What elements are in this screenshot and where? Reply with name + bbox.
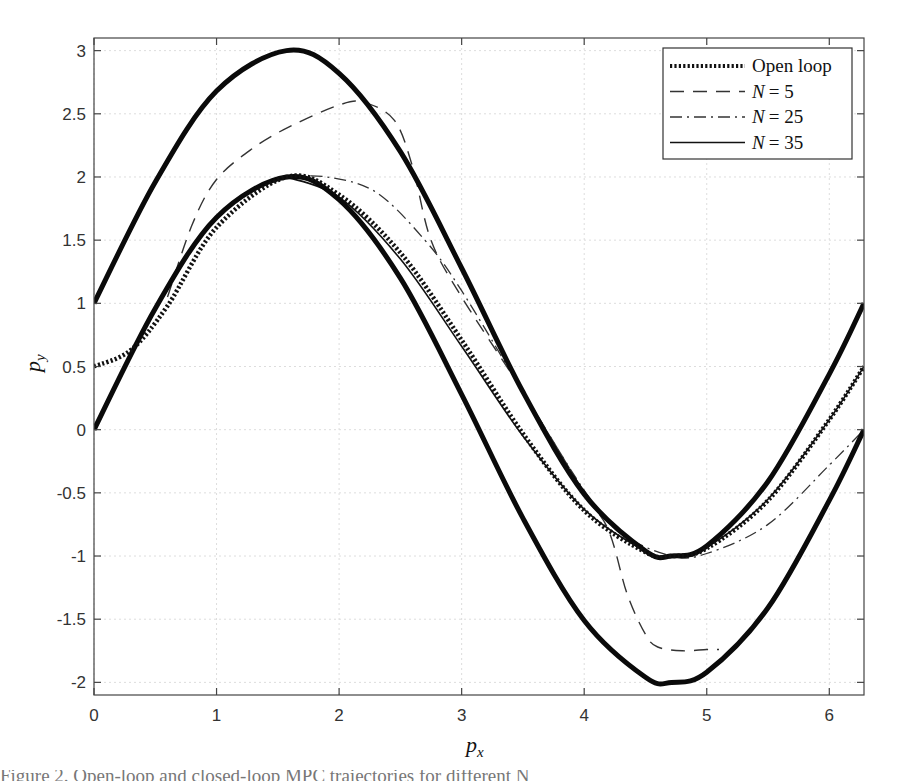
legend-label: N= 25	[751, 106, 803, 127]
x-tick-label: 3	[457, 706, 466, 725]
legend: Open loopN= 5N= 25N= 35	[663, 48, 852, 159]
figure-caption: Figure 2. Open-loop and closed-loop MPC …	[0, 770, 897, 781]
legend-label: N= 5	[751, 81, 794, 102]
x-tick-label: 0	[89, 706, 98, 725]
legend-label: Open loop	[752, 55, 832, 76]
y-tick-label: 3	[77, 42, 86, 61]
svg-text:px: px	[464, 732, 484, 760]
y-tick-label: 2	[77, 168, 86, 187]
y-tick-labels: 32.521.510.50-0.5-1-1.5-2	[57, 42, 86, 693]
legend-label: N= 35	[751, 132, 803, 153]
y-axis-label: py	[20, 354, 48, 374]
y-tick-label: -1.5	[57, 610, 86, 629]
x-tick-label: 2	[334, 706, 343, 725]
x-tick-label: 4	[579, 706, 588, 725]
y-tick-label: -1	[71, 547, 86, 566]
x-tick-label: 5	[702, 706, 711, 725]
y-tick-label: 2.5	[62, 105, 86, 124]
y-tick-label: -2	[71, 673, 86, 692]
y-tick-label: 1.5	[62, 231, 86, 250]
y-tick-label: 0.5	[62, 358, 86, 377]
line-chart: 0123456 32.521.510.50-0.5-1-1.5-2 px py …	[0, 0, 897, 781]
x-tick-labels: 0123456	[89, 706, 834, 725]
svg-text:py: py	[20, 354, 48, 374]
x-tick-label: 6	[825, 706, 834, 725]
y-tick-label: -0.5	[57, 484, 86, 503]
x-axis-label: px	[464, 732, 484, 760]
x-tick-label: 1	[212, 706, 221, 725]
y-tick-label: 1	[77, 294, 86, 313]
y-tick-label: 0	[77, 421, 86, 440]
